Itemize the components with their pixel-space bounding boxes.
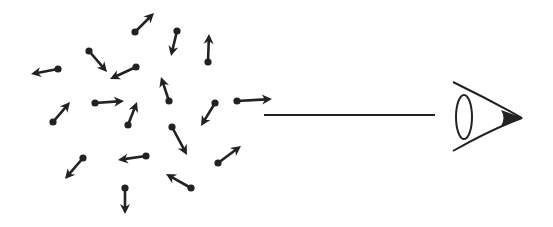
dipole-dot-icon bbox=[233, 97, 240, 104]
dipole-arrow bbox=[214, 146, 241, 167]
dipole-dot-icon bbox=[187, 184, 194, 191]
eye-icon bbox=[453, 82, 523, 151]
dipole-arrow bbox=[168, 27, 180, 56]
dipole-dot-icon bbox=[131, 28, 138, 35]
dipole-arrow bbox=[201, 99, 219, 126]
dipole-arrow bbox=[204, 34, 214, 66]
dipole-arrow bbox=[118, 152, 150, 163]
dipole-cluster bbox=[31, 13, 272, 214]
dipole-arrow bbox=[31, 65, 62, 77]
dipole-dot-icon bbox=[91, 99, 98, 106]
dipole-dot-icon bbox=[214, 159, 221, 166]
dipole-arrow bbox=[85, 47, 107, 72]
dipole-dot-icon bbox=[173, 27, 180, 34]
dipole-dot-icon bbox=[168, 123, 175, 130]
dipole-arrow bbox=[166, 174, 195, 192]
dipole-dot-icon bbox=[54, 65, 61, 72]
dipole-arrow bbox=[168, 123, 187, 155]
dipole-dot-icon bbox=[211, 99, 218, 106]
dipole-dot-icon bbox=[142, 152, 149, 159]
dipole-dot-icon bbox=[85, 47, 92, 54]
dipole-dot-icon bbox=[49, 118, 56, 125]
dipole-dot-icon bbox=[79, 154, 86, 161]
dipole-arrow bbox=[120, 184, 130, 214]
upper-eyelid bbox=[453, 82, 522, 118]
dipole-arrow bbox=[124, 102, 138, 129]
lower-eyelid bbox=[453, 118, 522, 151]
eye-lens bbox=[456, 95, 472, 139]
dipole-arrow bbox=[159, 77, 172, 105]
dipole-dot-icon bbox=[165, 97, 172, 104]
dipole-arrow bbox=[65, 154, 87, 179]
dipole-dot-icon bbox=[204, 58, 211, 65]
dipole-dot-icon bbox=[132, 63, 139, 70]
dipole-arrow bbox=[110, 63, 140, 79]
dipole-emission-diagram bbox=[0, 0, 553, 227]
dipole-dot-icon bbox=[121, 184, 128, 191]
dipole-dot-icon bbox=[124, 121, 131, 128]
dipole-arrow bbox=[233, 95, 272, 105]
dipole-arrow bbox=[49, 102, 70, 126]
dipole-arrow bbox=[131, 13, 154, 36]
dipole-arrow bbox=[91, 97, 124, 107]
